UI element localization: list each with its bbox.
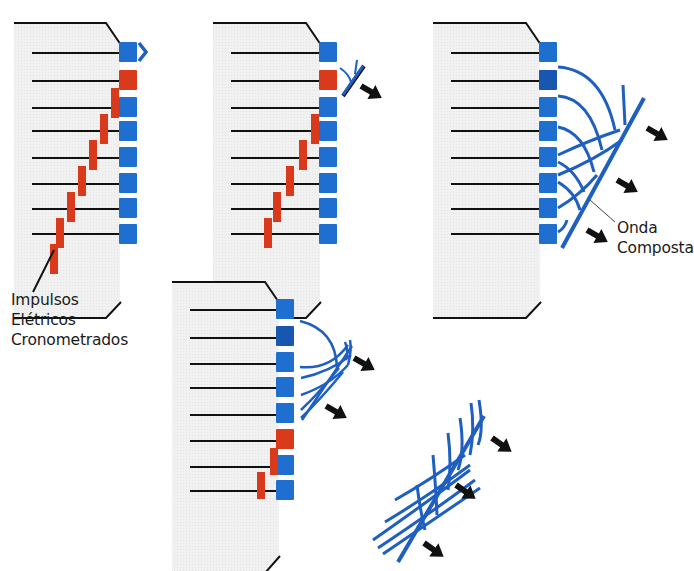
transducer-housing xyxy=(172,283,279,571)
composite-wave-label-line-2: Composta xyxy=(617,238,694,258)
panel-1 xyxy=(14,23,146,318)
elements xyxy=(539,42,557,244)
transducer-housing xyxy=(14,24,120,317)
first-wavelets xyxy=(340,60,364,96)
wavelets xyxy=(300,321,352,420)
transducer-housing xyxy=(213,24,320,317)
pulses-label-line-2: Elétricos xyxy=(11,310,128,330)
elements xyxy=(319,42,337,244)
panel-5 xyxy=(373,400,516,563)
propagation-arrow-icon xyxy=(357,79,386,105)
propagation-arrow-icon xyxy=(643,121,672,147)
propagation-arrow-icon xyxy=(613,173,642,199)
composite-wave-leader xyxy=(590,200,615,222)
transducer-housing xyxy=(433,24,540,317)
wavelets xyxy=(373,400,481,554)
elements xyxy=(119,42,137,244)
composite-wave-label: Onda Composta xyxy=(617,218,694,258)
pulses-label-line-3: Cronometrados xyxy=(11,330,128,350)
panel-3 xyxy=(433,23,672,318)
pulse-hidden xyxy=(50,244,58,274)
propagation-arrow-icon xyxy=(419,536,448,563)
propagation-arrow-icon xyxy=(350,351,379,377)
propagation-arrow-icon xyxy=(487,431,516,458)
pulses-label: Impulsos Elétricos Cronometrados xyxy=(11,290,128,350)
propagation-arrow-icon xyxy=(322,399,351,425)
panel-2 xyxy=(213,23,386,318)
propagation-arrow-icon xyxy=(583,223,612,249)
panel-4 xyxy=(172,282,379,571)
composite-wave-label-line-1: Onda xyxy=(617,218,694,238)
pulses-label-line-1: Impulsos xyxy=(11,290,128,310)
first-wavelet xyxy=(139,43,146,61)
